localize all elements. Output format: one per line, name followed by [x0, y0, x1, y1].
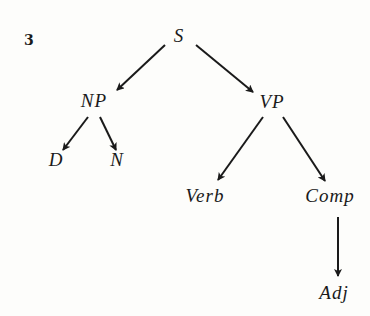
edge-np-n [100, 117, 116, 150]
node-vp: VP [259, 91, 284, 113]
edge-s-np [117, 45, 165, 90]
node-adj: Adj [319, 282, 348, 304]
edge-s-vp [196, 45, 253, 92]
edge-np-d [63, 117, 88, 150]
edge-vp-verb [218, 117, 263, 180]
edge-vp-comp [283, 117, 325, 181]
node-s: S [174, 25, 185, 47]
node-verb: Verb [186, 185, 225, 207]
node-comp: Comp [305, 185, 354, 207]
node-n: N [110, 149, 124, 171]
node-np: NP [81, 90, 107, 112]
node-d: D [49, 149, 64, 171]
